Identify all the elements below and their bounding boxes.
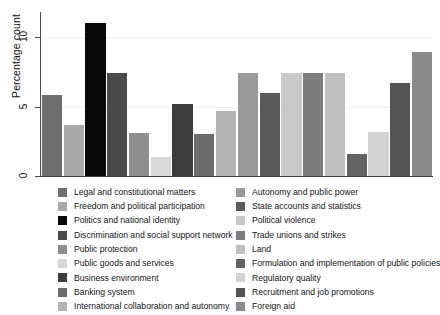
bar	[368, 132, 388, 176]
legend-swatch-icon	[58, 273, 67, 282]
legend-label: Regulatory quality	[252, 274, 321, 283]
legend-swatch-icon	[58, 288, 67, 297]
legend-swatch-icon	[236, 216, 245, 225]
bar	[390, 83, 410, 176]
legend-swatch-icon	[58, 302, 67, 311]
legend-label: Political violence	[252, 216, 316, 225]
legend-item[interactable]: Autonomy and public power	[236, 185, 440, 199]
legend-item[interactable]: Formulation and implementation of public…	[236, 256, 440, 270]
legend-item[interactable]: Land	[236, 242, 440, 256]
legend-item[interactable]: Banking system	[58, 285, 233, 299]
legend-label: International collaboration and autonomy	[74, 302, 229, 311]
y-tick-label: 5	[18, 97, 29, 115]
legend-item[interactable]: Freedom and political participation	[58, 199, 233, 213]
bar	[347, 154, 367, 176]
legend-label: Land	[252, 245, 271, 254]
y-tick-mark	[35, 107, 40, 108]
bar	[325, 73, 345, 176]
legend-swatch-icon	[236, 188, 245, 197]
legend-item[interactable]: Foreign aid	[236, 299, 440, 313]
bar	[107, 73, 127, 176]
legend-swatch-icon	[236, 245, 245, 254]
bar	[260, 93, 280, 176]
legend-label: Public protection	[74, 245, 138, 254]
y-tick-mark	[35, 37, 40, 38]
plot-area	[41, 12, 433, 176]
bar	[42, 95, 62, 176]
legend-swatch-icon	[58, 259, 67, 268]
legend-label: Foreign aid	[252, 302, 295, 311]
legend-item[interactable]: Recruitment and job promotions	[236, 285, 440, 299]
legend-label: Banking system	[74, 288, 135, 297]
bar	[216, 111, 236, 176]
legend-label: Freedom and political participation	[74, 202, 205, 211]
legend-swatch-icon	[236, 202, 245, 211]
legend-item[interactable]: Politics and national identity	[58, 214, 233, 228]
legend-label: Trade unions and strikes	[252, 231, 346, 240]
legend-label: Formulation and implementation of public…	[252, 259, 440, 268]
legend-label: Recruitment and job promotions	[252, 288, 374, 297]
legend-item[interactable]: Political violence	[236, 214, 440, 228]
legend-item[interactable]: Discrimination and social support networ…	[58, 228, 233, 242]
bar	[281, 73, 301, 176]
legend-item[interactable]: Public goods and services	[58, 256, 233, 270]
y-tick-label: 10	[18, 28, 29, 46]
y-tick-mark	[35, 176, 40, 177]
legend-item[interactable]: State accounts and statistics	[236, 199, 440, 213]
bar	[412, 52, 432, 176]
chart-legend: Legal and constitutional mattersFreedom …	[0, 183, 435, 315]
legend-swatch-icon	[58, 216, 67, 225]
bar	[172, 104, 192, 176]
legend-item[interactable]: Business environment	[58, 271, 233, 285]
legend-column-left: Legal and constitutional mattersFreedom …	[58, 185, 233, 314]
legend-swatch-icon	[236, 259, 245, 268]
bar-chart: Percentage count 0510	[0, 0, 435, 183]
legend-label: Legal and constitutional matters	[74, 188, 195, 197]
bar	[151, 157, 171, 176]
legend-item[interactable]: International collaboration and autonomy	[58, 299, 233, 313]
bar	[238, 73, 258, 176]
x-axis-line	[40, 176, 433, 177]
legend-swatch-icon	[58, 202, 67, 211]
bar	[129, 133, 149, 176]
legend-item[interactable]: Public protection	[58, 242, 233, 256]
legend-swatch-icon	[236, 288, 245, 297]
bar	[194, 134, 214, 176]
legend-item[interactable]: Trade unions and strikes	[236, 228, 440, 242]
legend-label: Public goods and services	[74, 259, 174, 268]
legend-label: Politics and national identity	[74, 216, 180, 225]
legend-swatch-icon	[58, 188, 67, 197]
bar	[64, 125, 84, 176]
legend-label: State accounts and statistics	[252, 202, 361, 211]
y-tick-label: 0	[18, 167, 29, 185]
legend-swatch-icon	[236, 273, 245, 282]
legend-label: Discrimination and social support networ…	[74, 231, 233, 240]
bar	[85, 23, 105, 176]
legend-swatch-icon	[236, 302, 245, 311]
legend-label: Business environment	[74, 274, 159, 283]
legend-item[interactable]: Regulatory quality	[236, 271, 440, 285]
bar	[303, 73, 323, 176]
legend-swatch-icon	[58, 245, 67, 254]
legend-swatch-icon	[58, 231, 67, 240]
legend-label: Autonomy and public power	[252, 188, 358, 197]
legend-swatch-icon	[236, 231, 245, 240]
legend-item[interactable]: Legal and constitutional matters	[58, 185, 233, 199]
legend-column-right: Autonomy and public powerState accounts …	[236, 185, 440, 314]
